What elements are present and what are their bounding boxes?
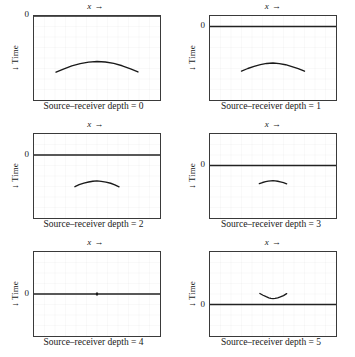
panel-caption: Source–receiver depth = 1 <box>177 101 355 112</box>
x-axis-arrow-icon: → <box>269 119 281 129</box>
zero-tick-label: 0 <box>19 10 29 19</box>
plot-svg <box>210 16 336 100</box>
panel-depth-2: x →↓ Time0Source–receiver depth = 2 <box>0 118 177 236</box>
plot-svg <box>34 134 160 218</box>
panel-depth-0: x →↓ Time0Source–receiver depth = 0 <box>0 0 177 118</box>
seismic-traveltime-figure: x →↓ Time0Source–receiver depth = 0x →↓ … <box>0 0 355 357</box>
zero-tick-label: 0 <box>195 21 205 30</box>
plot-svg <box>34 252 160 336</box>
plot-area <box>209 15 337 101</box>
y-axis-label: ↓ Time <box>187 45 197 70</box>
zero-tick-label: 0 <box>19 150 29 159</box>
y-axis-variable: Time <box>10 163 20 182</box>
panel-depth-4: x →↓ Time0Source–receiver depth = 4 <box>0 236 177 357</box>
panel-caption: Source–receiver depth = 5 <box>177 337 355 348</box>
x-axis-label: x → <box>177 1 355 12</box>
panel-caption: Source–receiver depth = 2 <box>0 219 177 230</box>
x-axis-arrow-icon: → <box>269 1 281 11</box>
y-axis-variable: Time <box>187 45 197 64</box>
y-axis-arrow-icon: ↓ <box>187 182 197 189</box>
y-axis-variable: Time <box>10 45 20 64</box>
x-axis-arrow-icon: → <box>269 237 281 247</box>
plot-svg <box>210 252 336 336</box>
x-axis-arrow-icon: → <box>92 237 104 247</box>
x-axis-label: x → <box>177 119 355 130</box>
y-axis-arrow-icon: ↓ <box>10 64 20 71</box>
y-axis-label: ↓ Time <box>10 45 20 70</box>
plot-area <box>33 133 161 219</box>
panel-caption: Source–receiver depth = 4 <box>0 337 177 348</box>
panel-depth-5: x →↓ Time0Source–receiver depth = 5 <box>177 236 355 357</box>
zero-tick-label: 0 <box>195 300 205 309</box>
zero-tick-label: 0 <box>195 160 205 169</box>
plot-area <box>209 251 337 337</box>
plot-area <box>209 133 337 219</box>
y-axis-arrow-icon: ↓ <box>10 182 20 189</box>
plot-svg <box>34 16 160 100</box>
y-axis-arrow-icon: ↓ <box>10 300 20 307</box>
zero-tick-label: 0 <box>19 289 29 298</box>
y-axis-variable: Time <box>187 281 197 300</box>
panel-caption: Source–receiver depth = 0 <box>0 101 177 112</box>
y-axis-label: ↓ Time <box>10 163 20 188</box>
panel-depth-3: x →↓ Time0Source–receiver depth = 3 <box>177 118 355 236</box>
x-axis-label: x → <box>0 119 177 130</box>
plot-area <box>33 15 161 101</box>
x-axis-arrow-icon: → <box>92 1 104 11</box>
panel-caption: Source–receiver depth = 3 <box>177 219 355 230</box>
x-axis-arrow-icon: → <box>92 119 104 129</box>
traveltime-curve <box>260 293 287 298</box>
plot-area <box>33 251 161 337</box>
x-axis-label: x → <box>177 237 355 248</box>
panel-depth-1: x →↓ Time0Source–receiver depth = 1 <box>177 0 355 118</box>
x-axis-label: x → <box>0 237 177 248</box>
plot-svg <box>210 134 336 218</box>
y-axis-arrow-icon: ↓ <box>187 64 197 71</box>
traveltime-point <box>96 293 98 296</box>
